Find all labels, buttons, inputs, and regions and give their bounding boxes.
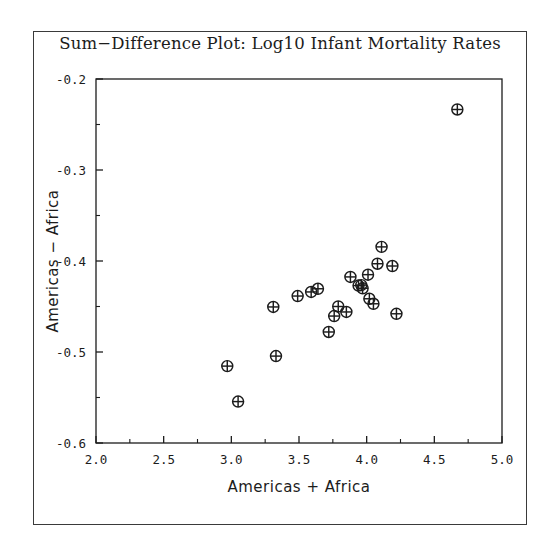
plot-axes-frame: [96, 79, 502, 443]
data-point-marker: [345, 271, 356, 282]
data-point-marker: [341, 306, 352, 317]
y-tick-label: -0.5: [56, 345, 86, 360]
x-axis-tick-labels: 2.02.53.03.54.04.55.0: [85, 452, 514, 467]
x-tick-label: 5.0: [491, 452, 514, 467]
y-tick-label: -0.3: [56, 163, 86, 178]
scatter-plot-canvas: 2.02.53.03.54.04.55.0 -0.2-0.3-0.4-0.5-0…: [0, 0, 554, 555]
y-tick-label: -0.6: [56, 436, 86, 451]
y-axis-ticks: [96, 79, 103, 443]
data-point-marker: [292, 291, 303, 302]
data-point-marker: [452, 104, 463, 115]
x-axis-ticks: [96, 436, 502, 443]
data-point-marker: [372, 258, 383, 269]
x-tick-label: 2.0: [85, 452, 108, 467]
figure-root: Sum−Difference Plot: Log10 Infant Mortal…: [0, 0, 554, 555]
data-point-marker: [268, 301, 279, 312]
y-axis-label: Americas − Africa: [44, 189, 62, 332]
x-axis-label: Americas + Africa: [227, 478, 370, 496]
data-point-marker: [333, 301, 344, 312]
x-tick-label: 3.5: [288, 452, 311, 467]
x-tick-label: 4.5: [423, 452, 446, 467]
x-tick-label: 2.5: [152, 452, 175, 467]
x-tick-label: 3.0: [220, 452, 243, 467]
data-point-marker: [368, 298, 379, 309]
data-point-marker: [376, 241, 387, 252]
data-point-marker: [357, 283, 368, 294]
data-point-marker: [391, 308, 402, 319]
data-point-marker: [270, 351, 281, 362]
scatter-data-points: [222, 104, 463, 407]
data-point-marker: [222, 361, 233, 372]
data-point-marker: [233, 396, 244, 407]
data-point-marker: [312, 283, 323, 294]
data-point-marker: [323, 326, 334, 337]
x-tick-label: 4.0: [355, 452, 378, 467]
data-point-marker: [363, 269, 374, 280]
data-point-marker: [387, 261, 398, 272]
y-tick-label: -0.2: [56, 72, 86, 87]
